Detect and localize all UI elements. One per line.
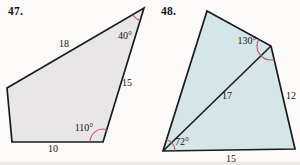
side-length-label: 12 [286,90,296,101]
diagonal-length-label: 17 [222,90,232,101]
side-length-label: 18 [59,38,69,49]
problem-number-48: 48. [161,5,176,17]
polygon-shape [163,11,295,151]
side-length-label: 15 [122,77,132,88]
geometry-figures-canvas: 18151040°110°121517130°72° [0,0,300,165]
angle-measure-label: 40° [118,30,132,41]
angle-measure-label: 130° [238,35,257,46]
angle-measure-label: 72° [175,136,189,147]
textbook-exercises-region: 18151040°110°121517130°72° 47. 48. [0,0,300,165]
angle-measure-label: 110° [75,122,94,133]
side-length-label: 10 [48,143,58,154]
problem-number-47: 47. [8,5,23,17]
page-edge-shade [0,162,300,165]
